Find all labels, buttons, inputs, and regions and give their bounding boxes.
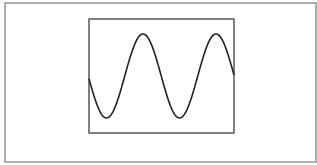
outer-border [5, 3, 316, 162]
sine-wave-curve [89, 34, 234, 118]
sine-wave-figure [0, 0, 317, 165]
